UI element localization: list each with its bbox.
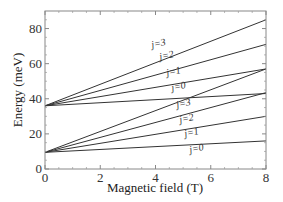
y-tick-label: 40 bbox=[29, 91, 42, 106]
x-tick-label: 0 bbox=[42, 170, 49, 185]
series-line bbox=[45, 69, 266, 106]
axis-ticks bbox=[45, 11, 266, 169]
plot-frame bbox=[45, 11, 266, 169]
x-axis-title: Magnetic field (T) bbox=[107, 180, 203, 195]
line-label: j=0 bbox=[168, 79, 186, 93]
series-line bbox=[45, 93, 266, 153]
line-label: j=1 bbox=[181, 125, 199, 139]
series-line bbox=[45, 69, 266, 152]
x-tick-label: 2 bbox=[97, 170, 104, 185]
x-tick-label: 8 bbox=[263, 170, 270, 185]
series-line bbox=[45, 94, 266, 106]
line-label: j=2 bbox=[156, 48, 174, 62]
line-label: j=2 bbox=[176, 111, 194, 125]
y-axis-title: Energy (meV) bbox=[10, 53, 25, 127]
y-tick-label: 60 bbox=[29, 56, 42, 71]
energy-vs-field-chart: 02468020406080 j=3j=2j=1j=0j=3j=2j=1j=0 … bbox=[0, 0, 283, 202]
y-tick-label: 0 bbox=[36, 161, 43, 176]
x-tick-label: 6 bbox=[208, 170, 215, 185]
series-line bbox=[45, 20, 266, 106]
y-tick-label: 20 bbox=[29, 126, 42, 141]
line-label: j=3 bbox=[148, 36, 166, 50]
line-label: j=1 bbox=[163, 64, 181, 78]
line-label: j=0 bbox=[186, 141, 204, 155]
series-line bbox=[45, 44, 266, 105]
y-tick-label: 80 bbox=[29, 21, 42, 36]
line-label: j=3 bbox=[173, 96, 191, 110]
